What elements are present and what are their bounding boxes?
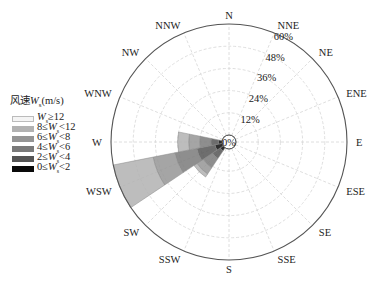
- direction-label: NNW: [155, 20, 180, 31]
- legend-entry: 0≤Ws<2: [8, 164, 76, 174]
- legend-swatch: [12, 166, 34, 172]
- direction-label: S: [226, 264, 232, 275]
- direction-label: W: [92, 137, 102, 148]
- petal-segment: [211, 138, 219, 145]
- legend-label: 0≤Ws<2: [37, 162, 70, 176]
- legend-swatch: [12, 116, 34, 122]
- legend-title: 风速Ws(m/s): [10, 96, 76, 110]
- radial-tick-label: 60%: [274, 31, 294, 42]
- petal-segment: [178, 132, 190, 152]
- direction-label: ENE: [346, 88, 366, 99]
- petal-segment: [200, 136, 211, 147]
- direction-label: SW: [123, 227, 139, 238]
- grid-spoke: [232, 148, 274, 251]
- radial-tick-label: 48%: [265, 52, 285, 63]
- direction-label: SSW: [159, 254, 181, 265]
- radial-tick-label: 12%: [240, 114, 259, 125]
- direction-label: NW: [122, 47, 140, 58]
- legend-swatch: [12, 156, 34, 162]
- direction-label: SE: [319, 227, 331, 238]
- legend: 风速Ws(m/s) Ws≥128≤Ws<126≤Ws<84≤Ws<62≤Ws<4…: [8, 96, 76, 174]
- legend-swatch: [12, 146, 34, 152]
- center-label: 0%: [222, 137, 235, 148]
- direction-label: WSW: [86, 186, 112, 197]
- direction-label: SSE: [278, 254, 296, 265]
- legend-swatch: [12, 136, 34, 142]
- grid-spoke: [234, 59, 312, 137]
- grid-spoke: [235, 145, 338, 187]
- grid-spoke: [120, 97, 223, 139]
- direction-label: WNW: [84, 88, 111, 99]
- direction-label: NNE: [278, 20, 300, 31]
- direction-label: E: [356, 137, 362, 148]
- direction-label: NE: [319, 47, 333, 58]
- petal-segment: [189, 134, 201, 150]
- legend-swatch: [12, 126, 34, 132]
- radial-tick-label: 36%: [257, 72, 277, 83]
- grid-spoke: [184, 33, 226, 136]
- direction-label: ESE: [346, 186, 365, 197]
- radial-tick-label: 24%: [249, 93, 269, 104]
- direction-label: N: [225, 10, 233, 21]
